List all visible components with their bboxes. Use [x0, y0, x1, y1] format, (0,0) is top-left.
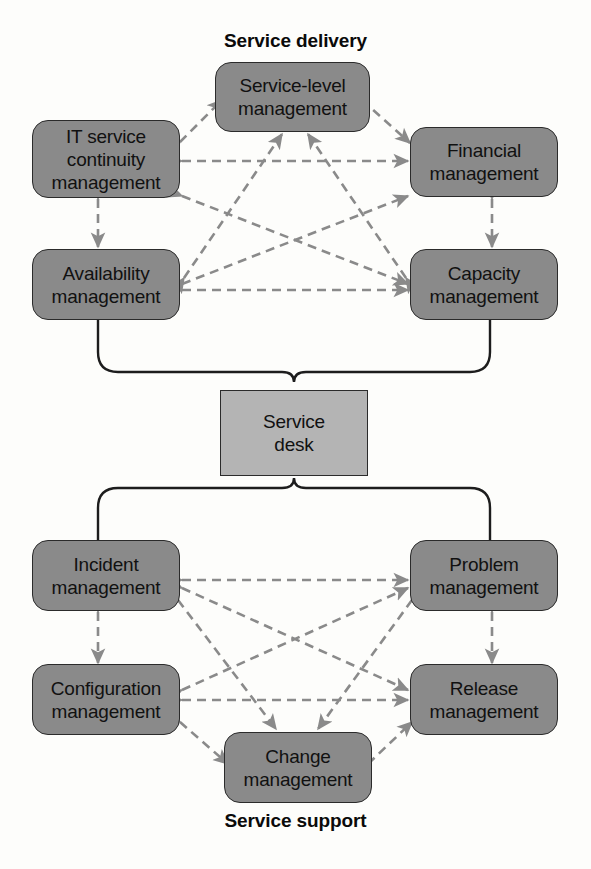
node-label-line1: Configuration: [51, 677, 161, 700]
node-label-line1: Service-level: [239, 74, 345, 97]
node-service-level-management[interactable]: Service-level management: [215, 62, 370, 132]
node-capacity-management[interactable]: Capacity management: [410, 249, 558, 320]
link-change-release: [368, 722, 412, 764]
node-label-line1: Problem: [449, 553, 518, 576]
node-label-line2: management: [430, 285, 539, 308]
node-label-line1: Capacity: [448, 262, 520, 285]
node-incident-management[interactable]: Incident management: [32, 540, 180, 611]
link-configuration-change: [180, 722, 228, 764]
brace-delivery-to-desk: [98, 320, 490, 382]
node-label-line2: management: [430, 162, 539, 185]
node-service-desk[interactable]: Service desk: [220, 390, 368, 476]
node-it-service-continuity-management[interactable]: IT service continuity management: [32, 120, 180, 198]
node-label-line2: management: [430, 576, 539, 599]
node-change-management[interactable]: Change management: [224, 732, 372, 803]
node-label-line2: desk: [274, 433, 313, 456]
node-label-line1: Incident: [74, 553, 139, 576]
node-label-line1: Change: [265, 745, 330, 768]
node-label-line1: Financial: [447, 139, 521, 162]
node-release-management[interactable]: Release management: [410, 664, 558, 735]
link-capacity-slm: [308, 134, 406, 278]
node-label-line1: Availability: [62, 262, 149, 285]
brace-desk-to-support: [98, 478, 490, 540]
node-problem-management[interactable]: Problem management: [410, 540, 558, 611]
node-label-line2: continuity: [67, 148, 145, 171]
link-incident-change: [178, 600, 276, 729]
node-label-line3: management: [52, 171, 161, 194]
node-availability-management[interactable]: Availability management: [32, 249, 180, 320]
link-availability-slm: [184, 134, 282, 278]
node-label-line1: Service: [263, 410, 325, 433]
service-delivery-title: Service delivery: [0, 30, 591, 52]
service-support-title: Service support: [0, 810, 591, 832]
node-label-line2: management: [52, 576, 161, 599]
node-label-line2: management: [52, 285, 161, 308]
node-label-line2: management: [244, 768, 353, 791]
node-label-line1: Release: [450, 677, 518, 700]
itil-diagram: Service delivery Service-level managemen…: [0, 0, 591, 869]
node-label-line2: management: [52, 700, 161, 723]
node-financial-management[interactable]: Financial management: [410, 127, 558, 197]
node-label-line2: management: [238, 97, 347, 120]
node-label-line2: management: [430, 700, 539, 723]
node-label-line1: IT service: [66, 125, 146, 148]
node-configuration-management[interactable]: Configuration management: [32, 664, 180, 735]
link-problem-change: [318, 600, 412, 729]
